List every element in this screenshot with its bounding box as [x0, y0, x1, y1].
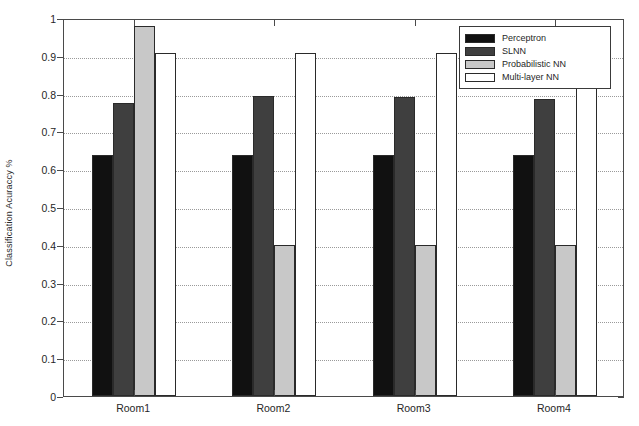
x-axis-tick-mark-top: [415, 20, 416, 26]
bar-room4-perceptron: [513, 155, 534, 396]
legend-swatch-icon: [465, 34, 495, 43]
x-axis-tick-mark-top: [134, 20, 135, 26]
x-axis-tick-mark: [274, 390, 275, 396]
x-axis-label-room1: Room1: [116, 402, 150, 414]
y-axis-tick-label: 0.9: [22, 51, 56, 63]
x-axis-tick-mark-top: [274, 20, 275, 26]
legend-item-perceptron: Perceptron: [465, 32, 605, 44]
y-axis-tick-label: 0.1: [22, 353, 56, 365]
bar-room4-probabilistic-nn: [555, 245, 576, 396]
bar-room2-slnn: [253, 96, 274, 397]
chart-legend: PerceptronSLNNProbabilistic NNMulti-laye…: [459, 26, 611, 89]
legend-swatch-icon: [465, 47, 495, 56]
bar-room1-multi-layer-nn: [155, 53, 176, 396]
y-axis-tick-label: 1: [22, 13, 56, 25]
legend-swatch-icon: [465, 60, 495, 69]
y-axis-tick-label: 0.3: [22, 278, 56, 290]
legend-label: Multi-layer NN: [502, 72, 559, 82]
x-axis-label-room3: Room3: [397, 402, 431, 414]
y-axis-tick-mark-right: [618, 397, 624, 398]
x-axis-label-room4: Room4: [537, 402, 571, 414]
legend-label: Perceptron: [502, 33, 546, 43]
bar-room4-multi-layer-nn: [576, 53, 597, 396]
x-axis-tick-mark: [555, 390, 556, 396]
y-axis-tick-label: 0.2: [22, 315, 56, 327]
y-axis-tick-label: 0: [22, 391, 56, 403]
bar-room1-probabilistic-nn: [134, 26, 155, 396]
bar-room1-slnn: [113, 103, 134, 396]
bar-room2-perceptron: [232, 155, 253, 396]
x-axis-tick-mark: [134, 390, 135, 396]
legend-swatch-icon: [465, 73, 495, 82]
bar-room2-multi-layer-nn: [295, 53, 316, 396]
y-axis-title: Classification Acuraccy %: [0, 0, 18, 426]
y-axis-tick-label: 0.6: [22, 164, 56, 176]
legend-item-multi-layer-nn: Multi-layer NN: [465, 71, 605, 83]
x-axis-tick-mark: [415, 390, 416, 396]
legend-item-probabilistic-nn: Probabilistic NN: [465, 58, 605, 70]
y-axis-tick-label: 0.5: [22, 202, 56, 214]
legend-label: SLNN: [502, 46, 526, 56]
bar-room3-probabilistic-nn: [415, 245, 436, 396]
y-axis-tick-label: 0.8: [22, 89, 56, 101]
bar-chart-figure: Classification Acuraccy % 00.10.20.30.40…: [0, 0, 639, 426]
legend-item-slnn: SLNN: [465, 45, 605, 57]
bar-room3-multi-layer-nn: [436, 53, 457, 396]
bar-room1-perceptron: [92, 155, 113, 396]
legend-label: Probabilistic NN: [502, 59, 566, 69]
x-axis-label-room2: Room2: [256, 402, 290, 414]
y-axis-tick-mark: [57, 397, 63, 398]
y-axis-tick-label: 0.7: [22, 126, 56, 138]
bar-room4-slnn: [534, 99, 555, 396]
bar-room3-slnn: [394, 97, 415, 396]
bar-room2-probabilistic-nn: [274, 245, 295, 396]
bar-room3-perceptron: [373, 155, 394, 396]
y-axis-tick-label: 0.4: [22, 240, 56, 252]
